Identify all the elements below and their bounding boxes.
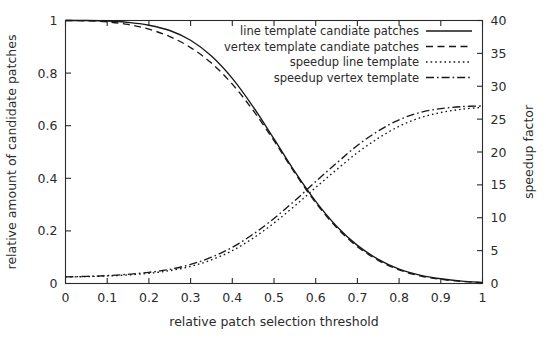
chart-figure: 00.10.20.30.40.50.60.70.80.9100.20.40.60…	[0, 0, 546, 340]
x-tick-label: 0.3	[181, 290, 201, 305]
y2-tick-label: 40	[491, 13, 507, 28]
legend-label-0: line template candiate patches	[240, 24, 419, 38]
y2-tick-label: 15	[491, 177, 507, 192]
y2-tick-label: 25	[491, 112, 507, 127]
x-tick-label: 0	[62, 290, 70, 305]
y-tick-label: 1	[50, 13, 58, 28]
series-line-1	[66, 21, 483, 283]
x-axis-title: relative patch selection threshold	[169, 314, 378, 329]
y2-tick-label: 0	[491, 276, 499, 291]
y-tick-label: 0.2	[38, 223, 58, 238]
series-line-0	[66, 20, 483, 282]
x-tick-label: 0.1	[97, 290, 117, 305]
series-line-2	[66, 107, 483, 277]
y-tick-label: 0.6	[38, 118, 58, 133]
legend-label-1: vertex template candiate patches	[224, 40, 419, 54]
y-tick-label: 0.8	[38, 66, 58, 81]
x-tick-label: 0.9	[431, 290, 451, 305]
plot-frame	[66, 21, 483, 284]
y2-axis-title: speedup factor	[521, 104, 536, 199]
y-axis-title: relative amount of candidate patches	[4, 35, 19, 270]
y-tick-label: 0	[50, 276, 58, 291]
series-line-3	[66, 106, 483, 277]
y2-tick-label: 35	[491, 46, 507, 61]
y-tick-label: 0.4	[38, 171, 58, 186]
y2-tick-label: 30	[491, 79, 507, 94]
x-tick-label: 1	[479, 290, 487, 305]
chart-canvas: 00.10.20.30.40.50.60.70.80.9100.20.40.60…	[0, 0, 546, 340]
x-tick-label: 0.4	[222, 290, 242, 305]
x-tick-label: 0.7	[347, 290, 367, 305]
y2-tick-label: 20	[491, 145, 507, 160]
y2-tick-label: 5	[491, 243, 499, 258]
legend-label-3: speedup vertex template	[274, 71, 419, 85]
legend-label-2: speedup line template	[290, 55, 419, 69]
x-tick-label: 0.8	[389, 290, 409, 305]
x-tick-label: 0.5	[264, 290, 284, 305]
x-tick-label: 0.2	[139, 290, 159, 305]
y2-tick-label: 10	[491, 210, 507, 225]
x-tick-label: 0.6	[306, 290, 326, 305]
